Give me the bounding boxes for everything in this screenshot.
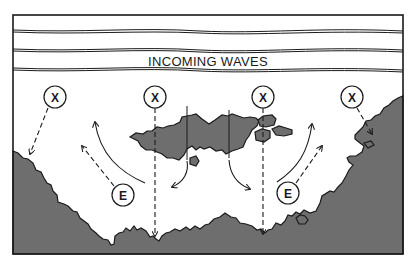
incoming-waves-label: INCOMING WAVES <box>148 54 268 69</box>
island-fragment-3 <box>272 126 292 136</box>
arrow-e2-outward <box>296 146 322 183</box>
island-fragment-1 <box>258 115 276 127</box>
coastline-land <box>13 96 403 254</box>
x-marker-label: X <box>51 91 59 105</box>
x-marker-1: X <box>44 86 66 108</box>
arrow-x1-to-shore <box>30 108 48 154</box>
x-marker-4: X <box>341 86 363 108</box>
mainland-shore <box>13 96 403 254</box>
e-marker-label: E <box>119 189 127 203</box>
arrow-e1-outward <box>82 146 114 186</box>
e-marker-2: E <box>277 182 299 204</box>
e-marker-label: E <box>284 187 292 201</box>
e-marker-1: E <box>112 184 134 206</box>
offshore-island <box>130 114 259 160</box>
curve-left-inward <box>172 161 187 187</box>
island-fragment-4 <box>190 156 199 166</box>
x-marker-3: X <box>252 86 274 108</box>
wave-refraction-diagram: INCOMING WAVES X X X X E <box>0 0 415 265</box>
curve-right-inward <box>229 160 250 189</box>
x-marker-label: X <box>259 91 267 105</box>
x-marker-label: X <box>151 91 159 105</box>
curve-left-outward <box>95 122 145 183</box>
x-marker-label: X <box>348 91 356 105</box>
x-marker-2: X <box>144 86 166 108</box>
